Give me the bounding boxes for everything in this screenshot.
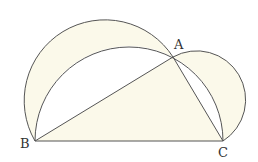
point-label-b: B <box>20 137 30 150</box>
point-label-c: C <box>218 146 228 159</box>
diagram-canvas <box>0 0 258 162</box>
point-label-a: A <box>174 38 183 51</box>
lune-diagram: A B C <box>0 0 258 162</box>
